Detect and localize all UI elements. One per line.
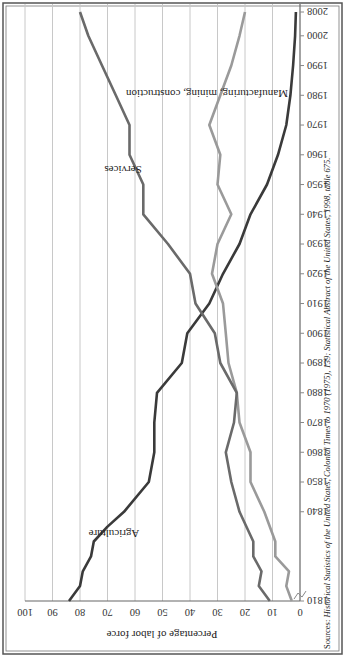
x-tick-label: 1980 — [307, 90, 328, 101]
y-tick-label: 90 — [47, 607, 58, 618]
x-tick-label: 2000 — [307, 30, 328, 41]
source-body: Historical Statistics of the United Stat… — [322, 158, 332, 619]
y-tick-label: 10 — [267, 607, 278, 618]
y-tick-label: 20 — [240, 607, 251, 618]
y-tick-label: 70 — [102, 607, 113, 618]
y-tick-label: 30 — [212, 607, 223, 618]
y-tick-label: 60 — [130, 607, 141, 618]
y-axis-label: Percentage of labor force — [106, 629, 217, 641]
y-tick-label: 80 — [75, 607, 86, 618]
y-tick-label: 40 — [185, 607, 196, 618]
x-tick-label: 1970 — [307, 119, 328, 130]
labor-force-chart: 0102030405060708090100181018401850186018… — [0, 0, 345, 657]
annotation-manufacturing: Manufacturing, mining, construction — [126, 88, 288, 100]
x-tick-label: 1990 — [307, 60, 328, 71]
y-tick-label: 100 — [17, 607, 33, 618]
y-tick-label: 0 — [297, 607, 302, 618]
source-prefix: Sources: — [322, 618, 332, 649]
annotation-services: Services — [104, 164, 141, 176]
source-note: Sources: Historical Statistics of the Un… — [322, 158, 332, 649]
annotation-agriculture: Agriculture — [89, 528, 140, 540]
chart-stage: 0102030405060708090100181018401850186018… — [0, 0, 345, 657]
x-tick-label: 2008 — [307, 6, 328, 17]
y-tick-label: 50 — [157, 607, 168, 618]
